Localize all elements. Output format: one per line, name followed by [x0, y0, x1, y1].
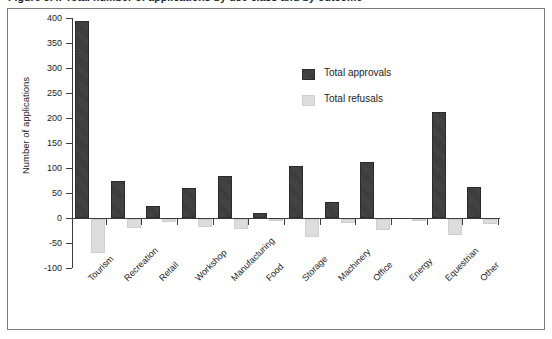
chart-legend: Total approvals Total refusals	[302, 66, 452, 118]
bar-approvals	[325, 202, 339, 218]
bar-refusals	[127, 219, 141, 228]
bar-approvals	[218, 176, 232, 219]
plot-area: 400350300250200150100500-50-100 Number o…	[0, 0, 552, 339]
bar-refusals	[448, 219, 462, 235]
legend-item-approvals: Total approvals	[302, 66, 452, 92]
figure-container: Figure 3.4: Total number of applications…	[0, 0, 552, 339]
bar-approvals	[182, 188, 196, 218]
bar-refusals	[91, 219, 105, 253]
bar-series-group: TourismRecreationRetailWorkshopManufactu…	[72, 0, 500, 339]
bar-approvals	[432, 112, 446, 218]
bar-refusals	[162, 219, 176, 222]
y-axis-ticks: 400350300250200150100500-50-100	[0, 0, 72, 339]
x-tick-mark	[106, 218, 107, 225]
x-tick-mark	[320, 218, 321, 225]
bar-approvals	[467, 187, 481, 218]
x-tick-mark	[498, 218, 499, 225]
bar-refusals	[376, 219, 390, 230]
y-axis-label: Number of applications	[20, 61, 31, 191]
x-axis-label: Office	[371, 259, 395, 283]
x-axis-label: Machinery	[336, 247, 372, 283]
bar-refusals	[412, 219, 426, 221]
bar-refusals	[234, 219, 248, 229]
approvals-swatch-icon	[302, 69, 315, 80]
bar-approvals	[75, 21, 89, 219]
x-tick-mark	[248, 218, 249, 225]
bar-approvals	[111, 181, 125, 219]
y-tick-label: 0	[22, 214, 62, 223]
bar-refusals	[269, 219, 283, 221]
x-tick-mark	[355, 218, 356, 225]
x-tick-mark	[213, 218, 214, 225]
bar-approvals	[289, 166, 303, 219]
x-axis-label: Tourism	[86, 254, 115, 283]
bar-approvals	[360, 162, 374, 219]
x-axis-label: Storage	[300, 254, 329, 283]
bar-refusals	[198, 219, 212, 227]
y-tick-label: -100	[22, 264, 62, 273]
x-tick-mark	[427, 218, 428, 225]
y-tick-label: -50	[22, 239, 62, 248]
x-axis-label: Equestrian	[443, 246, 480, 283]
x-axis-label: Workshop	[193, 247, 229, 283]
x-axis-label: Energy	[407, 256, 434, 283]
y-tick-label: 350	[22, 39, 62, 48]
x-tick-mark	[284, 218, 285, 225]
legend-label-refusals: Total refusals	[324, 93, 383, 104]
y-tick-label: 400	[22, 14, 62, 23]
bar-approvals	[146, 206, 160, 219]
bar-approvals	[253, 213, 267, 218]
x-axis-label: Food	[264, 261, 286, 283]
bar-refusals	[341, 219, 355, 223]
x-axis-label: Recreation	[122, 245, 160, 283]
bar-refusals	[483, 219, 497, 224]
x-axis-label: Other	[478, 260, 501, 283]
legend-label-approvals: Total approvals	[324, 67, 391, 78]
x-tick-mark	[141, 218, 142, 225]
legend-item-refusals: Total refusals	[302, 92, 452, 118]
x-axis-label: Retail	[157, 260, 180, 283]
x-tick-mark	[177, 218, 178, 225]
bar-refusals	[305, 219, 319, 237]
x-tick-mark	[391, 218, 392, 225]
refusals-swatch-icon	[302, 95, 315, 106]
x-tick-mark	[462, 218, 463, 225]
